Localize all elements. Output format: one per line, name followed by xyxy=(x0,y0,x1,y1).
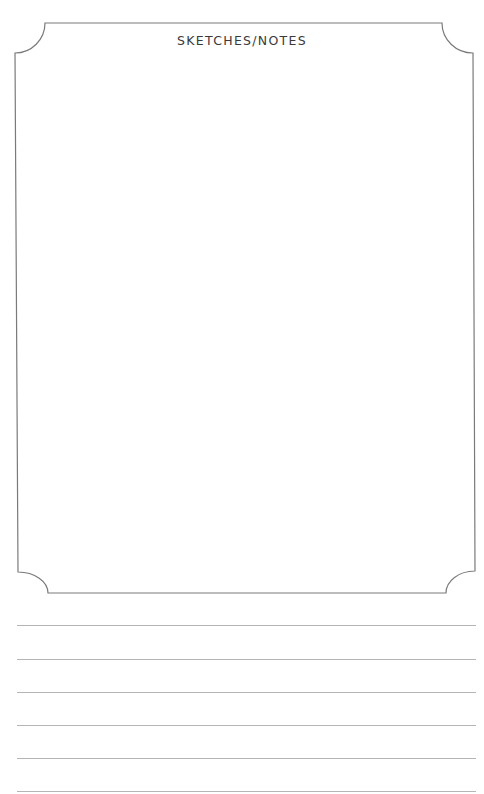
ruled-line xyxy=(17,659,476,660)
ruled-line xyxy=(17,625,476,626)
ruled-line xyxy=(17,725,476,726)
ruled-line xyxy=(17,692,476,693)
ruled-line xyxy=(17,791,476,792)
ruled-lines xyxy=(0,0,484,794)
ruled-line xyxy=(17,758,476,759)
